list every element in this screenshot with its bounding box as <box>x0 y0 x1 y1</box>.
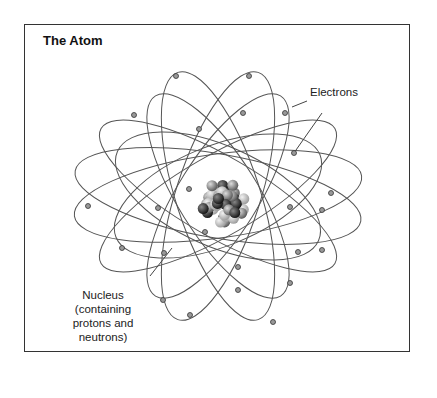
electron <box>271 320 276 325</box>
electron <box>197 127 202 132</box>
nucleus-label-line4: neutrons) <box>68 330 138 344</box>
electron <box>174 74 179 79</box>
electron <box>187 187 192 192</box>
nucleon <box>198 203 209 214</box>
electron <box>247 74 252 79</box>
electron <box>241 111 246 116</box>
electron <box>320 208 325 213</box>
electron <box>162 251 167 256</box>
electron <box>86 204 91 209</box>
electron <box>188 313 193 318</box>
nucleus-label-line2: (containing <box>68 302 138 316</box>
electron <box>288 205 293 210</box>
electron <box>320 248 325 253</box>
nucleus <box>195 175 251 231</box>
electron <box>329 191 334 196</box>
electrons-pointer-line <box>296 113 322 150</box>
electron <box>236 265 241 270</box>
electron <box>120 246 125 251</box>
nucleon <box>227 180 238 191</box>
electron <box>132 113 137 118</box>
electron <box>288 281 293 286</box>
electron <box>283 111 288 116</box>
nucleus-label: Nucleus (containing protons and neutrons… <box>68 288 138 344</box>
nucleon <box>229 207 240 218</box>
nucleon <box>207 180 218 191</box>
electron <box>292 151 297 156</box>
electrons-label: Electrons <box>310 85 358 99</box>
electron <box>203 230 208 235</box>
electron <box>156 206 161 211</box>
atom-diagram <box>0 0 437 398</box>
nucleus-label-line1: Nucleus <box>68 288 138 302</box>
nucleon <box>213 193 224 204</box>
nucleus-label-line3: protons and <box>68 316 138 330</box>
electrons-leader-line <box>292 101 307 107</box>
electron <box>296 250 301 255</box>
electron <box>161 298 166 303</box>
electron <box>236 288 241 293</box>
